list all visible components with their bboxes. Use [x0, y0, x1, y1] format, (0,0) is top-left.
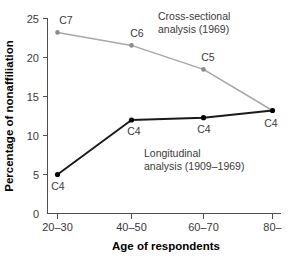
series-cross-sectional	[55, 30, 275, 113]
cross-sectional-line	[58, 32, 273, 110]
chart-figure: 25 20 15 10 5 0 20–30 40–50 60–70 80– Ag…	[0, 0, 294, 265]
y-tick-label-20: 20	[27, 52, 39, 64]
cross-sectional-annotation-line1: Cross-sectional	[158, 10, 230, 22]
longitudinal-label-c4-80-plus: C4	[264, 117, 278, 129]
cross-sectional-label-c5: C5	[201, 51, 215, 63]
longitudinal-annotation: Longitudinal analysis (1909–1969)	[144, 147, 244, 172]
x-tick-label-60-70: 60–70	[188, 221, 219, 233]
cross-sectional-point-20-30	[55, 30, 60, 35]
y-tick-label-0: 0	[33, 208, 39, 220]
cross-sectional-point-60-70	[201, 67, 206, 72]
y-tick-label-5: 5	[33, 169, 39, 181]
longitudinal-point-60-70	[201, 115, 206, 120]
cross-sectional-annotation: Cross-sectional analysis (1969)	[158, 10, 230, 35]
longitudinal-label-c4-60-70: C4	[197, 123, 211, 135]
x-tick-label-80-plus: 80–	[263, 221, 282, 233]
cross-sectional-annotation-line2: analysis (1969)	[158, 23, 229, 35]
longitudinal-point-20-30	[55, 172, 60, 177]
x-axis-title: Age of respondents	[112, 240, 220, 252]
y-tick-label-10: 10	[27, 130, 39, 142]
chart-plot-area: 25 20 15 10 5 0 20–30 40–50 60–70 80– Ag…	[0, 0, 294, 265]
cross-sectional-label-c6: C6	[130, 27, 144, 39]
longitudinal-annotation-line1: Longitudinal	[144, 147, 201, 159]
longitudinal-label-c4-20-30: C4	[51, 180, 65, 192]
longitudinal-annotation-line2: analysis (1909–1969)	[144, 160, 244, 172]
x-tick-marks	[58, 214, 273, 220]
axes-group	[48, 18, 282, 214]
y-axis-title: Percentage of nonaffiliation	[3, 40, 15, 191]
cross-sectional-label-c7: C7	[59, 14, 73, 26]
x-tick-label-40-50: 40–50	[116, 221, 147, 233]
x-tick-label-20-30: 20–30	[42, 221, 73, 233]
y-tick-marks	[43, 19, 48, 175]
longitudinal-label-c4-40-50: C4	[127, 125, 141, 137]
x-tick-labels: 20–30 40–50 60–70 80–	[42, 221, 282, 233]
y-tick-label-25: 25	[27, 13, 39, 25]
longitudinal-point-80-plus	[270, 108, 275, 113]
y-tick-labels: 25 20 15 10 5 0	[27, 13, 39, 220]
longitudinal-point-40-50	[129, 117, 134, 122]
y-tick-label-15: 15	[27, 91, 39, 103]
cross-sectional-point-40-50	[129, 43, 134, 48]
